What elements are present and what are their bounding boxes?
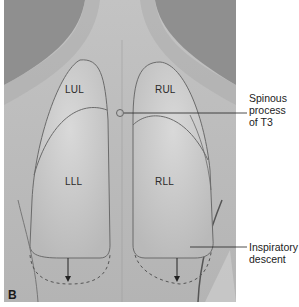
callout-line: Spinous — [249, 92, 287, 104]
callout-line: Inspiratory — [249, 241, 298, 253]
callout-line: process — [249, 104, 287, 116]
callout-line: of T3 — [249, 116, 287, 128]
label-rul: RUL — [155, 84, 176, 95]
callout-inspiratory-descent: Inspiratory descent — [249, 241, 298, 265]
label-lul: LUL — [65, 84, 84, 95]
label-lll: LLL — [65, 176, 82, 187]
callout-spinous-process: Spinous process of T3 — [249, 92, 287, 128]
callout-line: descent — [249, 253, 298, 265]
label-rll: RLL — [155, 176, 174, 187]
panel-letter: B — [8, 288, 17, 302]
posterior-lung-diagram: LUL RUL LLL RLL Spinous process of T3 In… — [0, 0, 299, 307]
